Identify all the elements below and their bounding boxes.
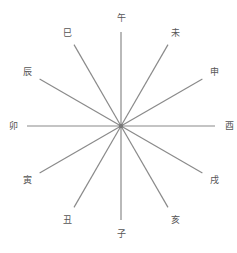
branch-label: 子 xyxy=(117,230,126,239)
branch-label: 申 xyxy=(210,68,219,77)
spoke-line xyxy=(74,45,121,126)
spoke-line xyxy=(40,79,121,126)
spoke-line xyxy=(121,45,168,126)
spoke-line xyxy=(121,79,202,126)
spoke-line xyxy=(121,126,202,173)
spoke-line xyxy=(74,126,121,207)
branch-label: 未 xyxy=(171,28,180,37)
branch-label: 戌 xyxy=(210,176,219,185)
branch-label: 亥 xyxy=(171,215,180,224)
spoke-line xyxy=(40,126,121,173)
branch-label: 巳 xyxy=(63,28,72,37)
branch-label: 午 xyxy=(117,14,126,23)
branch-label: 寅 xyxy=(23,176,32,185)
branch-label: 辰 xyxy=(23,68,32,77)
center-point xyxy=(119,124,123,128)
branch-label: 丑 xyxy=(63,215,72,224)
spoke-line xyxy=(121,126,168,207)
branch-label: 卯 xyxy=(9,122,18,131)
spoke-diagram xyxy=(0,0,237,253)
branch-label: 酉 xyxy=(225,122,234,131)
